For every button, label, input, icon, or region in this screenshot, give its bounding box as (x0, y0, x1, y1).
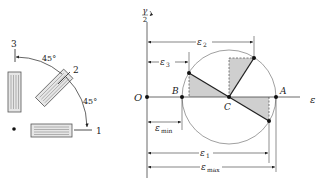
dim-label-emin: ε min (155, 123, 173, 134)
gamma-label-num: γ (143, 6, 148, 15)
point-O (145, 95, 149, 99)
svg-text:ε: ε (200, 148, 205, 158)
svg-text:ε: ε (160, 57, 165, 67)
point-A (274, 95, 278, 99)
gauge-1 (31, 124, 72, 137)
svg-text:ε: ε (197, 37, 202, 47)
gamma-label-den: 2 (143, 16, 147, 24)
svg-text:1: 1 (206, 152, 210, 159)
gauge-3 (8, 72, 21, 112)
svg-text:ε: ε (201, 162, 206, 172)
gauge-label-1: 1 (96, 126, 102, 136)
origin-dot (12, 127, 16, 131)
point-C (227, 95, 231, 99)
svg-text:min: min (161, 127, 173, 134)
angle-label-lower: 45° (83, 97, 97, 106)
svg-text:ε: ε (155, 123, 160, 133)
gauge-label-2: 2 (73, 65, 79, 75)
strain-rosette: 1 2 3 45° 45° (8, 39, 102, 137)
label-C: C (224, 102, 231, 112)
label-B: B (171, 86, 179, 96)
label-O: O (134, 92, 142, 103)
label-A: A (279, 86, 287, 96)
svg-text:2: 2 (203, 41, 207, 48)
point-B (180, 95, 184, 99)
svg-text:max: max (207, 166, 220, 173)
point-gauge-3 (187, 71, 191, 75)
point-gauge-1 (267, 119, 271, 123)
epsilon-axis-label: ε (310, 94, 315, 105)
gauge-label-3: 3 (11, 39, 17, 49)
angle-label-upper: 45° (42, 54, 56, 63)
point-gauge-2 (252, 56, 256, 60)
svg-text:3: 3 (166, 61, 170, 68)
diagram-canvas: 1 2 3 45° 45° (0, 0, 323, 184)
mohr-circle-diagram: γ 2 ε O B C A ε 2 ε 3 ε min ε 1 ε max (134, 6, 315, 178)
